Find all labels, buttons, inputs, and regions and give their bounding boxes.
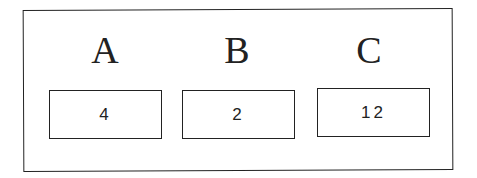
value-box-c: 12 — [317, 88, 430, 137]
value-c: 12 — [361, 103, 386, 123]
value-a: 4 — [99, 105, 111, 125]
value-box-b: 2 — [182, 90, 295, 139]
value-b: 2 — [232, 105, 244, 125]
value-box-a: 4 — [49, 90, 162, 139]
label-b: B — [207, 30, 267, 70]
label-c: C — [339, 30, 399, 70]
label-a: A — [75, 30, 135, 70]
